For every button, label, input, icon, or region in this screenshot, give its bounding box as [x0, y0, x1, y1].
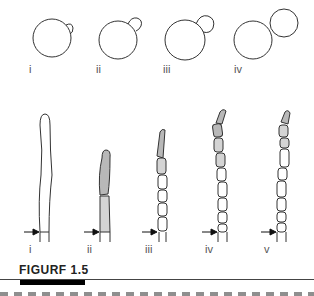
yeast-cell-ii — [99, 18, 142, 59]
bottom-panel-label-iv: iv — [205, 243, 213, 255]
arrow-icon-iii — [142, 229, 157, 235]
hypha-ii — [99, 150, 110, 242]
arrow-icon-iv — [202, 229, 217, 235]
bottom-panel-label-i: i — [29, 243, 31, 255]
top-panel-label-iv: iv — [234, 63, 242, 75]
hypha-iii — [157, 129, 167, 242]
arrow-icon-v — [261, 229, 276, 235]
arrow-icon-i — [24, 229, 39, 235]
figure-caption: FIGURF 1.5 — [19, 263, 89, 277]
hypha-v — [277, 111, 290, 242]
hypha-i — [39, 114, 52, 242]
top-panel-label-iii: iii — [163, 63, 170, 75]
yeast-cell-iii — [165, 16, 214, 60]
arrow-icon-ii — [84, 229, 99, 235]
truncated-body-text — [0, 292, 314, 296]
bottom-panel-label-ii: ii — [87, 243, 92, 255]
top-panel-label-i: i — [29, 63, 31, 75]
bottom-panel-label-iii: iii — [145, 243, 152, 255]
bottom-panel-label-v: v — [264, 243, 270, 255]
caption-accent-bar — [20, 280, 85, 285]
yeast-cell-iv — [234, 9, 298, 59]
yeast-cell-i — [33, 19, 73, 57]
top-panel-label-ii: ii — [96, 63, 101, 75]
hypha-iv — [212, 110, 227, 242]
